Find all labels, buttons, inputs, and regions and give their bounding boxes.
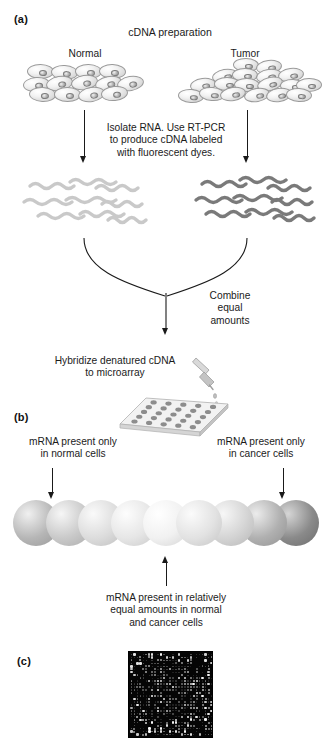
array-fluorescent-spot [134,686,135,687]
array-fluorescent-spot [187,716,189,718]
array-fluorescent-spot [149,675,150,676]
array-fluorescent-spot [181,704,182,705]
array-fluorescent-spot [175,680,177,682]
array-fluorescent-spot [160,677,162,679]
array-fluorescent-spot [157,663,159,665]
array-fluorescent-spot [145,654,147,656]
array-fluorescent-spot [157,678,158,679]
array-fluorescent-spot [152,686,153,687]
array-fluorescent-spot [190,680,191,681]
array-fluorescent-spot [169,683,171,685]
array-fluorescent-spot [202,719,203,720]
array-fluorescent-spot [139,683,141,685]
microarray-spot [180,403,186,407]
array-fluorescent-spot [190,698,192,700]
array-fluorescent-spot [143,657,145,659]
array-fluorescent-spot [131,704,133,706]
array-fluorescent-spot [208,654,209,655]
array-fluorescent-spot [157,725,159,727]
array-fluorescent-spot [208,663,209,664]
microarray-spot [195,420,201,424]
array-fluorescent-spot [169,730,171,732]
array-fluorescent-spot [154,668,156,670]
array-fluorescent-spot [146,701,147,702]
array-fluorescent-spot [160,668,162,670]
array-fluorescent-spot [196,695,198,697]
array-fluorescent-spot [140,666,141,667]
array-fluorescent-spot [137,722,139,724]
array-fluorescent-spot [178,692,180,694]
array-fluorescent-spot [151,731,153,733]
cancer-only-caption: mRNA present only in cancer cells [196,436,326,461]
array-fluorescent-spot [208,707,210,709]
array-fluorescent-spot [160,686,161,687]
array-fluorescent-spot [193,701,195,703]
array-fluorescent-spot [199,719,201,721]
array-fluorescent-spot [202,665,204,667]
array-fluorescent-spot [184,701,186,703]
array-fluorescent-spot [184,677,186,679]
array-fluorescent-spot [143,663,145,665]
array-fluorescent-spot [175,704,176,705]
array-fluorescent-spot [196,680,198,682]
array-fluorescent-spot [196,686,198,688]
array-fluorescent-spot [175,689,176,690]
array-fluorescent-spot [178,725,180,727]
array-fluorescent-spot [160,659,162,661]
array-fluorescent-spot [172,734,173,735]
array-fluorescent-spot [175,686,177,688]
array-fluorescent-spot [190,733,192,735]
array-fluorescent-spot [133,653,135,655]
array-fluorescent-spot [160,692,162,694]
array-fluorescent-spot [172,663,173,664]
array-fluorescent-spot [172,680,173,681]
array-fluorescent-spot [163,731,165,733]
array-fluorescent-spot [160,675,161,676]
microarray-spot [136,415,142,419]
array-fluorescent-spot [210,704,212,706]
array-fluorescent-spot [181,695,183,697]
array-fluorescent-spot [204,653,206,655]
array-fluorescent-spot [157,731,159,733]
array-fluorescent-spot [193,677,194,678]
array-fluorescent-spot [205,689,207,691]
array-fluorescent-spot [190,713,192,715]
array-fluorescent-spot [133,728,135,730]
array-fluorescent-spot [175,707,177,709]
microarray-spot [156,411,162,415]
array-fluorescent-spot [210,710,212,712]
array-fluorescent-spot [142,734,144,736]
array-fluorescent-spot [196,710,198,712]
array-fluorescent-spot [140,716,142,718]
array-fluorescent-spot [205,683,207,685]
array-fluorescent-spot [157,722,158,723]
array-fluorescent-spot [193,728,194,729]
array-fluorescent-spot [199,680,201,682]
array-fluorescent-spot [166,704,168,706]
array-fluorescent-spot [151,660,152,661]
array-fluorescent-spot [134,722,136,724]
array-fluorescent-spot [134,683,135,684]
array-fluorescent-spot [187,689,189,691]
array-fluorescent-spot [160,719,161,720]
array-fluorescent-spot [142,689,144,691]
array-fluorescent-spot [205,728,207,730]
array-fluorescent-spot [199,666,200,667]
array-fluorescent-spot [202,654,204,656]
array-fluorescent-spot [202,704,204,706]
array-fluorescent-spot [148,698,150,700]
array-fluorescent-spot [134,716,135,717]
array-fluorescent-spot [152,692,153,693]
array-fluorescent-spot [166,666,168,668]
array-fluorescent-spot [202,701,204,703]
array-fluorescent-spot [163,683,164,684]
array-fluorescent-spot [196,654,197,655]
array-fluorescent-spot [154,707,155,708]
array-fluorescent-spot [146,710,147,711]
microarray-spot [146,405,152,409]
array-fluorescent-spot [169,707,170,708]
array-fluorescent-spot [184,710,185,711]
microarray-spot [151,400,157,404]
array-fluorescent-spot [166,683,168,685]
array-fluorescent-spot [157,675,158,676]
